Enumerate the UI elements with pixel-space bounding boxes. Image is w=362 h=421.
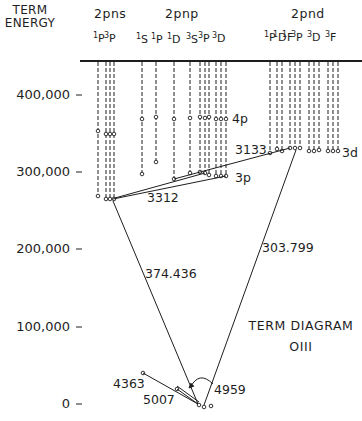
diagram-title: TERM DIAGRAM OIII xyxy=(248,318,354,354)
y-axis-ticks xyxy=(76,95,82,404)
term-2pns-1P: 1P xyxy=(93,31,105,45)
y-tick-400000: 400,000 xyxy=(0,87,70,102)
term-2pnp-1D: 1D xyxy=(167,32,181,46)
group-label-2pnd: 2pnd xyxy=(291,6,325,21)
term-2pnp-3P: 3P xyxy=(198,31,210,45)
term-2pnp-1S: 1S xyxy=(136,32,148,46)
group-label-2pns: 2pns xyxy=(94,6,126,21)
transition-lines xyxy=(113,148,296,405)
term-2pnp-3D: 3D xyxy=(212,31,226,45)
2pns-levels xyxy=(98,62,114,198)
y-tick-300000: 300,000 xyxy=(0,164,70,179)
axis-title: TERM ENERGY xyxy=(2,4,58,30)
level-label-3d: 3d xyxy=(342,145,358,160)
transition-label-5007: 5007 xyxy=(143,392,175,407)
diagram-title-line2: OIII xyxy=(248,339,354,354)
level-label-3p: 3p xyxy=(235,170,251,185)
transition-label-374436: 374.436 xyxy=(145,266,197,281)
axis-title-line2: ENERGY xyxy=(2,17,58,30)
transition-label-4363: 4363 xyxy=(113,376,145,391)
y-tick-0: 0 xyxy=(0,396,70,411)
term-diagram-svg xyxy=(0,0,362,421)
y-tick-200000: 200,000 xyxy=(0,241,70,256)
y-tick-100000: 100,000 xyxy=(0,319,70,334)
transition-label-303799: 303.799 xyxy=(262,240,314,255)
term-2pnp-3S: 3S xyxy=(186,32,198,46)
group-label-2pnp: 2pnp xyxy=(165,6,199,21)
term-2pnp-1P: 1P xyxy=(151,32,163,46)
2pnd-levels xyxy=(270,62,338,152)
transition-label-3133: 3133 xyxy=(235,142,267,157)
transition-label-4959: 4959 xyxy=(214,382,246,397)
diagram-title-line1: TERM DIAGRAM xyxy=(248,318,354,333)
transition-label-3312: 3312 xyxy=(147,190,179,205)
term-2pnd-3P: 3P xyxy=(291,30,303,44)
level-label-4p: 4p xyxy=(232,111,248,126)
term-2pns-3P: 3P xyxy=(104,31,116,45)
term-2pnd-3D: 3D xyxy=(307,30,321,44)
term-2pnd-3F: 3F xyxy=(325,30,336,44)
